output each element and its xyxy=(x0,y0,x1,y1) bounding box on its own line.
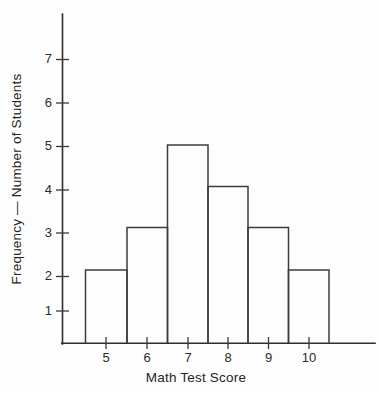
x-axis-tick-labels: 5 6 7 8 9 10 xyxy=(102,350,316,365)
bar-score-8 xyxy=(208,187,248,344)
y-tick-label-2: 2 xyxy=(45,268,52,283)
chart-plot-area: 7 6 5 4 3 2 1 5 6 xyxy=(0,0,379,393)
x-tick-label-10: 10 xyxy=(302,350,316,365)
bar-score-9 xyxy=(248,228,289,344)
y-tick-label-7: 7 xyxy=(45,51,52,66)
y-tick-label-1: 1 xyxy=(45,303,52,318)
x-axis-title: Math Test Score xyxy=(146,370,246,385)
y-tick-label-4: 4 xyxy=(45,182,52,197)
y-tick-label-3: 3 xyxy=(45,225,52,240)
x-tick-label-5: 5 xyxy=(102,350,109,365)
x-tick-label-9: 9 xyxy=(265,350,272,365)
x-tick-label-6: 6 xyxy=(143,350,150,365)
histogram-chart: 7 6 5 4 3 2 1 5 6 xyxy=(0,0,379,393)
bar-score-6 xyxy=(127,228,168,344)
y-tick-label-5: 5 xyxy=(45,138,52,153)
y-tick-label-6: 6 xyxy=(45,95,52,110)
y-axis-title: Frequency — Number of Students xyxy=(9,74,24,285)
x-tick-label-8: 8 xyxy=(224,350,231,365)
histogram-bars xyxy=(86,145,330,343)
y-axis-tick-labels: 7 6 5 4 3 2 1 xyxy=(45,51,52,318)
bar-score-5 xyxy=(86,270,128,343)
x-tick-label-7: 7 xyxy=(184,350,191,365)
bar-score-7 xyxy=(168,145,209,343)
bar-score-10 xyxy=(289,270,330,343)
